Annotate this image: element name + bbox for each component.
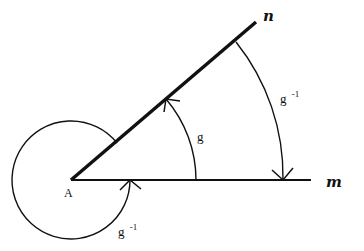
line-label-m: m — [326, 173, 342, 191]
inner-angle-label-g: g — [197, 129, 204, 144]
outer-angle-label: g -1 — [280, 89, 299, 106]
vertex-label-a: A — [64, 186, 73, 200]
outer-arc-g-inverse — [236, 42, 283, 180]
reflex-angle-label-base: g — [118, 224, 125, 239]
reflex-angle-label: g -1 — [118, 222, 137, 239]
outer-angle-label-base: g — [280, 91, 287, 106]
reflex-angle-label-superscript: -1 — [130, 222, 138, 232]
line-label-n: n — [263, 7, 274, 25]
line-n — [71, 22, 256, 180]
outer-angle-label-superscript: -1 — [292, 89, 300, 99]
angle-diagram: A n m g g -1 g -1 — [0, 0, 364, 251]
inner-arc-g — [166, 99, 196, 180]
